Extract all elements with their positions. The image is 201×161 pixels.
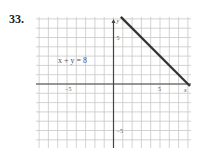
svg-text:−5: −5 xyxy=(117,128,123,134)
coordinate-graph: xy −555−5 x + y = 8 xyxy=(0,0,201,161)
equation-label: x + y = 8 xyxy=(58,56,87,65)
plotted-line xyxy=(121,17,190,86)
svg-text:5: 5 xyxy=(117,35,120,41)
svg-text:x: x xyxy=(183,87,187,93)
svg-text:−5: −5 xyxy=(65,86,71,92)
svg-text:y: y xyxy=(116,18,120,24)
svg-text:5: 5 xyxy=(158,86,161,92)
